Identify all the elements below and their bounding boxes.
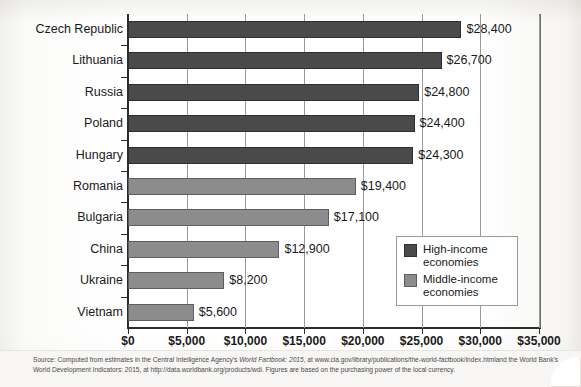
bar-row: $28,400 [128,14,540,45]
bar-row: $19,400 [128,171,540,202]
y-axis-label-poland: Poland [3,115,123,132]
bar-value-label: $28,400 [461,21,511,38]
bar-value-label: $17,100 [329,209,379,226]
bar-russia [128,84,419,101]
bar-bulgaria [128,209,329,226]
legend-item-high-income: High-incomeeconomies [404,243,510,268]
y-axis-category-labels: Czech RepublicLithuaniaRussiaPolandHunga… [0,14,123,328]
bar-value-label: $12,900 [279,241,329,258]
bar-romania [128,178,356,195]
legend-swatch-high-income [404,244,417,257]
y-tick-mark [121,265,128,266]
y-axis-label-hungary: Hungary [3,147,123,164]
y-axis-label-romania: Romania [3,178,123,195]
y-axis-label-czech-republic: Czech Republic [3,21,123,38]
y-tick-mark [121,202,128,203]
y-tick-mark [121,297,128,298]
y-axis-label-china: China [3,241,123,258]
y-tick-mark [121,140,128,141]
bar-value-label: $26,700 [442,52,492,69]
x-tick-label-5000: $5,000 [168,334,205,348]
legend-label-middle-income: Middle-incomeeconomies [423,273,498,298]
bar-vietnam [128,304,194,321]
bar-row: $24,300 [128,140,540,171]
source-note: Source: Computed from estimates in the C… [0,350,581,387]
x-tick-label-25000: $25,000 [400,334,443,348]
legend-swatch-middle-income [404,274,417,287]
x-tick-label-10000: $10,000 [224,334,267,348]
legend-label-high-income: High-incomeeconomies [423,243,488,268]
y-tick-mark [121,171,128,172]
y-axis-label-bulgaria: Bulgaria [3,209,123,226]
x-tick-label-20000: $20,000 [341,334,384,348]
y-axis-label-lithuania: Lithuania [3,52,123,69]
y-axis-label-russia: Russia [3,84,123,101]
y-tick-mark [121,234,128,235]
y-tick-mark [121,45,128,46]
x-axis-tick-labels: $0$5,000$10,000$15,000$20,000$25,000$30,… [0,334,581,350]
scan-artifact-top-left [40,1,42,8]
x-tick-label-0: $0 [121,334,134,348]
x-tick-label-35000: $35,000 [517,334,560,348]
x-tick-label-15000: $15,000 [282,334,325,348]
bar-ukraine [128,272,224,289]
bar-row: $24,800 [128,77,540,108]
bar-value-label: $24,800 [419,84,469,101]
bar-poland [128,115,415,132]
bar-row: $17,100 [128,202,540,233]
y-tick-mark [121,77,128,78]
bar-china [128,241,279,258]
bar-value-label: $8,200 [224,272,267,289]
source-note-text: Source: Computed from estimates in the C… [33,355,559,374]
bar-value-label: $24,300 [413,147,463,164]
source-italic-title: World Factbook: 2015 [239,356,304,363]
bar-row: $26,700 [128,45,540,76]
bar-hungary [128,147,413,164]
y-tick-mark [121,108,128,109]
bar-czech-republic [128,21,461,38]
bar-lithuania [128,52,442,69]
x-tick-label-30000: $30,000 [459,334,502,348]
chart-legend: High-incomeeconomies Middle-incomeeconom… [396,236,518,306]
bar-value-label: $24,400 [415,115,465,132]
y-axis-label-ukraine: Ukraine [3,272,123,289]
bar-row: $24,400 [128,108,540,139]
bar-value-label: $19,400 [356,178,406,195]
bar-value-label: $5,600 [194,304,237,321]
legend-item-middle-income: Middle-incomeeconomies [404,273,510,298]
chart-page: Czech RepublicLithuaniaRussiaPolandHunga… [0,0,581,387]
y-axis-label-vietnam: Vietnam [3,304,123,321]
